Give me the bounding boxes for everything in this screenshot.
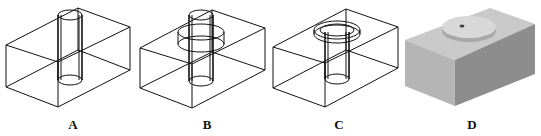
panel-label-b: B: [203, 117, 212, 133]
panel-a-wireframe: [6, 8, 130, 107]
panel-label-a: A: [68, 117, 77, 133]
panel-d-shaded: [405, 8, 535, 106]
diagram-canvas: [0, 0, 541, 136]
figure: A B C D: [0, 0, 541, 136]
panel-label-d: D: [467, 117, 476, 133]
panel-c-wireframe: [273, 9, 398, 107]
panel-b-wireframe: [140, 10, 265, 108]
panel-label-c: C: [334, 117, 343, 133]
